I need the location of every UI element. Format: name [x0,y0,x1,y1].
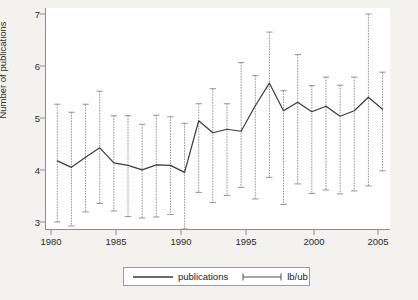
x-tick-label-1985: 1985 [96,236,136,247]
plot-area [45,8,390,230]
chart-canvas [46,8,391,230]
y-tick-label-6: 6 [18,61,40,72]
publications-line [57,83,382,172]
y-axis-title: Number of publications [0,0,8,150]
y-tick-label-4: 4 [18,165,40,176]
legend-label-lbub: lb/ub [287,271,308,282]
chart-legend: publications lb/ub [123,267,310,286]
x-tick-label-2005: 2005 [358,236,398,247]
legend-line-swatch [132,271,174,283]
legend-entry-publications: publications [132,268,228,285]
error-bars-group [54,14,386,229]
legend-entry-lbub: lb/ub [241,268,308,285]
x-tick-label-1995: 1995 [226,236,266,247]
y-tick-label-3: 3 [18,217,40,228]
legend-range-swatch [241,271,283,283]
y-tick-label-5: 5 [18,113,40,124]
x-tick-label-1990: 1990 [161,236,201,247]
x-tick-label-1980: 1980 [31,236,71,247]
chart-figure: Number of publications 7 6 5 4 3 1980 19… [0,0,418,300]
x-tick-label-2000: 2000 [294,236,334,247]
y-tick-label-7: 7 [18,9,40,20]
legend-label-publications: publications [178,271,228,282]
